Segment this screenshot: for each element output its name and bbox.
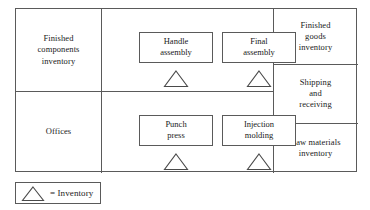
facility-layout-diagram: Finishedcomponentsinventory Offices Fini… — [15, 8, 357, 172]
area-label: Shippingandreceiving — [299, 77, 332, 111]
inventory-triangle-icon — [21, 185, 45, 202]
area-finished-components-inventory: Finishedcomponentsinventory — [16, 9, 101, 91]
workcenter-label: Injectionmolding — [222, 115, 296, 146]
area-label: Finishedgoodsinventory — [299, 20, 332, 54]
area-offices: Offices — [16, 91, 101, 173]
area-label: Offices — [46, 126, 72, 137]
workcenter-handle-assembly: Handleassembly — [139, 32, 213, 88]
legend-label: = Inventory — [50, 188, 93, 198]
area-label: Raw materialsinventory — [290, 137, 340, 160]
workcenter-punch-press: Punchpress — [139, 115, 213, 171]
inventory-triangle-icon — [222, 69, 296, 88]
workcenter-injection-molding: Injectionmolding — [222, 115, 296, 171]
workcenter-label: Finalassembly — [222, 32, 296, 63]
inventory-triangle-icon — [139, 69, 213, 88]
area-label: Finishedcomponentsinventory — [37, 33, 79, 67]
workcenter-label: Handleassembly — [139, 32, 213, 63]
inventory-triangle-icon — [139, 152, 213, 171]
workcenter-label: Punchpress — [139, 115, 213, 146]
legend: = Inventory — [15, 182, 101, 204]
workcenter-final-assembly: Finalassembly — [222, 32, 296, 88]
inventory-triangle-icon — [222, 152, 296, 171]
